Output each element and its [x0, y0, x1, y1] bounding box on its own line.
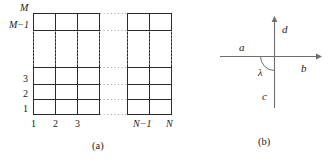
grid-horizontal-ellipsis: [100, 14, 127, 115]
axis-label-d: d: [282, 24, 288, 35]
x-label-3: 3: [75, 119, 80, 129]
right-arrowhead-icon: [316, 54, 322, 60]
panel-b-caption: (b): [258, 136, 270, 147]
up-arrowhead-icon: [272, 16, 278, 22]
x-label-N-minus-1: N−1: [133, 119, 151, 129]
y-label-1: 1: [23, 104, 28, 114]
grid-vertical-ellipsis: [34, 31, 172, 67]
lattice-grid-svg: [33, 13, 172, 115]
panel-b-axis-cross: a b d c λ (b): [196, 0, 334, 162]
angle-label-lambda: λ: [258, 68, 262, 78]
axis-label-b: b: [301, 63, 307, 74]
lattice-grid: [33, 13, 172, 115]
y-label-M-minus-1: M−1: [9, 20, 29, 30]
angle-arc-icon: [261, 57, 275, 71]
figure-root: M M−1 3 2 1 1 2 3 N−1 N (a): [0, 0, 334, 162]
x-label-N: N: [166, 119, 173, 129]
y-label-M: M: [20, 3, 28, 13]
panel-a-caption: (a): [92, 140, 104, 151]
y-label-3: 3: [23, 74, 28, 84]
panel-a-lattice: M M−1 3 2 1 1 2 3 N−1 N (a): [0, 0, 196, 162]
grid-horizontal-lines-left: [33, 14, 100, 115]
x-label-1: 1: [31, 119, 36, 129]
x-label-2: 2: [53, 119, 58, 129]
axis-label-a: a: [239, 42, 245, 53]
y-label-2: 2: [23, 89, 28, 99]
axis-label-c: c: [262, 91, 267, 102]
